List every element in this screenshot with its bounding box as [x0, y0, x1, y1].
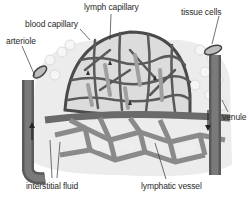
label-lymphatic-vessel: lymphatic vessel — [141, 182, 202, 191]
label-venule: venule — [222, 113, 246, 122]
diagram-illustration — [0, 0, 251, 199]
lymphatic-diagram: lymph capillary blood capillary tissue c… — [0, 0, 251, 199]
label-interstitial-fluid: interstitial fluid — [26, 182, 78, 191]
label-blood-capillary: blood capillary — [25, 20, 78, 29]
label-lymph-capillary: lymph capillary — [84, 3, 139, 12]
label-arteriole: arteriole — [6, 37, 36, 46]
label-tissue-cells: tissue cells — [181, 8, 221, 17]
